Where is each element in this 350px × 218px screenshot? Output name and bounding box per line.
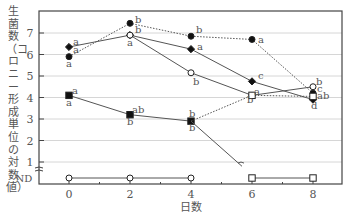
svg-text:a: a [66,97,72,108]
svg-text:ab: ab [132,104,144,115]
svg-text:a: a [66,58,72,69]
svg-text:6: 6 [27,49,34,62]
svg-text:3: 3 [27,113,34,126]
svg-text:8: 8 [310,188,317,201]
svg-text:b: b [196,24,202,35]
svg-text:1: 1 [27,156,34,169]
svg-text:6: 6 [249,188,256,201]
svg-text:b: b [135,24,141,35]
svg-text:a: a [73,44,79,55]
svg-text:a: a [72,85,78,96]
svg-text:ab: ab [317,90,329,101]
svg-text:b: b [189,122,195,133]
significance-labels: aaaaabbaabbbabbbacabbcabd [66,14,329,133]
line-chart: 1234567ND 02468 aaaaabbaabbbabbbacabbcab… [0,0,350,218]
svg-text:ND: ND [16,173,33,184]
svg-text:a: a [258,34,264,45]
data-series [65,20,316,181]
svg-text:a: a [127,37,133,48]
svg-text:c: c [258,70,264,81]
svg-text:7: 7 [27,27,34,40]
svg-text:4: 4 [27,92,34,105]
y-axis-ticks: 1234567ND [16,27,44,184]
svg-text:5: 5 [27,70,34,83]
svg-text:d: d [311,100,318,111]
svg-text:4: 4 [188,188,195,201]
svg-text:a: a [254,86,260,97]
svg-text:a: a [197,41,203,52]
svg-text:b: b [189,108,195,119]
svg-text:2: 2 [127,188,134,201]
svg-text:0: 0 [66,188,73,201]
svg-text:2: 2 [27,135,34,148]
svg-text:b: b [247,94,253,105]
svg-text:b: b [193,76,199,87]
svg-text:b: b [127,116,133,127]
x-axis-ticks: 02468 [66,180,317,201]
